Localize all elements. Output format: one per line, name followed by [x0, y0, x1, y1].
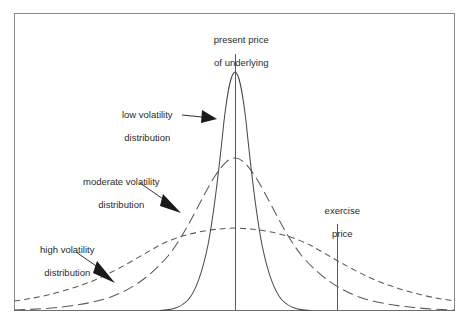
high-volatility-line1: high volatility: [40, 244, 94, 255]
moderate-volatility-line2: distribution: [98, 199, 144, 210]
present-price-line2: of underlying: [214, 57, 268, 68]
exercise-price-line1: exercise: [325, 205, 360, 216]
label-moderate-volatility: moderate volatility distribution: [62, 164, 170, 222]
label-exercise-price: exercise price: [300, 193, 374, 251]
high-volatility-line2: distribution: [44, 267, 90, 278]
chart-page: present price of underlying exercise pri…: [0, 0, 469, 325]
label-present-price: present price of underlying: [188, 22, 284, 80]
present-price-line1: present price: [214, 34, 269, 45]
low-volatility-line2: distribution: [124, 132, 170, 143]
label-high-volatility: high volatility distribution: [18, 232, 106, 290]
moderate-volatility-line1: moderate volatility: [83, 176, 160, 187]
low-volatility-line1: low volatility: [122, 109, 173, 120]
label-low-volatility: low volatility distribution: [100, 97, 184, 155]
exercise-price-line2: price: [332, 228, 353, 239]
